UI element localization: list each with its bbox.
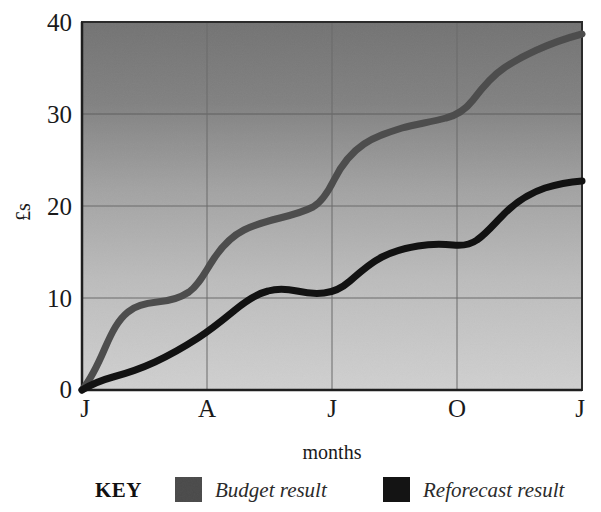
chart-container: 40 30 20 10 0 £s J A J O J months KEY Bu…	[0, 0, 601, 512]
line-chart: 40 30 20 10 0 £s J A J O J months KEY Bu…	[0, 0, 601, 512]
y-axis-tick-labels: 40 30 20 10 0	[47, 9, 72, 403]
legend-swatch-budget-result-texture	[175, 477, 202, 502]
x-axis-tick-labels: J A J O J	[80, 395, 585, 422]
y-tick-0: 0	[60, 376, 73, 403]
legend-swatch-reforecast-result	[383, 477, 410, 502]
x-tick-apr: A	[198, 395, 216, 422]
legend-key-label: KEY	[95, 478, 142, 502]
y-tick-30: 30	[47, 101, 72, 128]
x-tick-jul: J	[327, 395, 337, 422]
legend-label-budget-result: Budget result	[215, 478, 328, 502]
y-axis-title: £s	[12, 203, 34, 221]
chart-legend: KEY Budget result Reforecast result	[95, 477, 565, 502]
y-tick-20: 20	[47, 193, 72, 220]
x-tick-jan-end: J	[575, 395, 585, 422]
y-tick-40: 40	[47, 9, 72, 36]
y-tick-10: 10	[47, 285, 72, 312]
x-tick-oct: O	[448, 395, 466, 422]
x-tick-jan: J	[80, 395, 90, 422]
legend-label-reforecast-result: Reforecast result	[422, 478, 565, 502]
x-axis-title: months	[303, 441, 362, 463]
